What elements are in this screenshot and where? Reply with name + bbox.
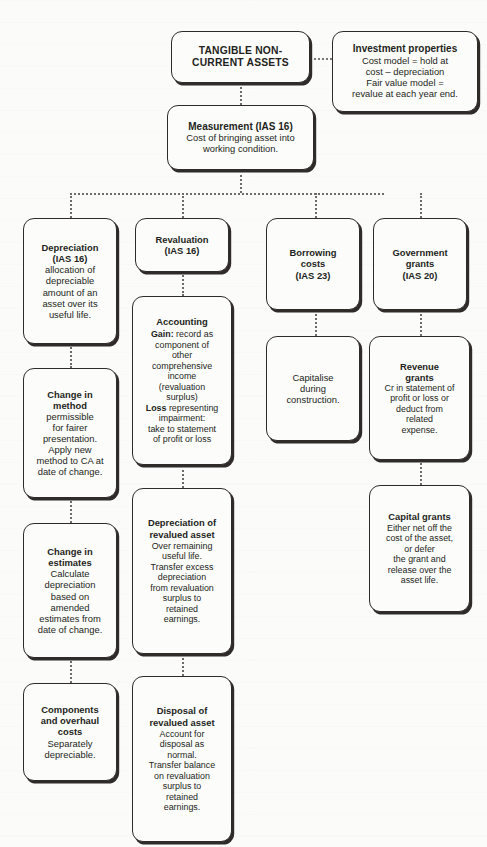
node-title-line: Disposal of	[157, 705, 208, 716]
node-title-line: costs	[58, 726, 83, 737]
node-line: surplus to	[163, 781, 201, 792]
connector-bus-to-revaluation	[182, 193, 184, 218]
node-line: date of change.	[38, 624, 103, 635]
connector-measurement-to-bus	[240, 170, 242, 193]
node-line: Transfer balance	[149, 760, 215, 771]
node-accounting[interactable]: Accounting Gain: record as component of …	[132, 296, 232, 465]
node-line: construction.	[286, 394, 339, 405]
node-line: Cost model = hold at	[362, 55, 448, 66]
node-change-in-estimates[interactable]: Change in estimates Calculate depreciati…	[23, 523, 117, 658]
node-line: asset life.	[401, 575, 439, 586]
node-line: presentation.	[43, 433, 97, 444]
node-title-line: Borrowing	[290, 247, 337, 258]
node-line: depreciable	[46, 275, 94, 286]
node-line: Over remaining	[152, 541, 213, 552]
node-title-line: estimates	[48, 557, 91, 568]
node-line: retained	[166, 792, 198, 803]
node-line: profit or loss or	[390, 393, 449, 404]
node-line: from revaluation	[150, 583, 214, 594]
node-line: or defer	[404, 544, 435, 555]
node-line: amended	[50, 602, 89, 613]
node-line: record as	[174, 329, 213, 339]
node-capital-grants[interactable]: Capital grants Either net off the cost o…	[369, 485, 470, 612]
node-line: Apply new	[48, 444, 91, 455]
node-line: cost – depreciation	[366, 66, 445, 77]
node-line: depreciation	[44, 579, 95, 590]
node-line: take to statement	[148, 424, 216, 435]
node-line: component of	[155, 340, 209, 351]
node-line: earnings.	[164, 614, 201, 625]
node-disposal-of-revalued-asset[interactable]: Disposal of revalued asset Account for d…	[132, 676, 232, 842]
node-title: Investment properties	[353, 43, 457, 55]
node-title-line: Change in	[47, 546, 92, 557]
connector-revaluation-to-accounting	[182, 272, 184, 296]
node-line: deduct from	[396, 404, 443, 415]
node-government-grants[interactable]: Government grants (IAS 20)	[373, 218, 467, 310]
connector-depreciation-to-change-method	[70, 344, 72, 368]
node-title-line: Revenue	[400, 361, 439, 372]
node-line: Transfer excess	[151, 562, 214, 573]
node-line: revalue at each year end.	[352, 88, 458, 99]
node-title-line: (IAS 20)	[403, 270, 438, 281]
loss-label: Loss	[146, 403, 167, 413]
node-line: Cost of bringing asset into	[186, 132, 294, 143]
node-depreciation-of-revalued-asset[interactable]: Depreciation of revalued asset Over rema…	[132, 488, 232, 654]
node-title-line: Revaluation	[155, 234, 208, 245]
node-title-line: Depreciation	[42, 242, 99, 253]
node-title-line: (IAS 23)	[296, 270, 331, 281]
connector-depreciation-revalued-to-disposal	[182, 654, 184, 676]
node-line: of profit or loss	[153, 434, 211, 445]
node-line: cost of the asset,	[386, 533, 453, 544]
node-line: comprehensive	[152, 361, 212, 372]
node-line: surplus)	[166, 392, 198, 403]
node-line: for fairer	[53, 422, 88, 433]
node-investment-properties[interactable]: Investment properties Cost model = hold …	[332, 31, 478, 112]
node-borrowing-costs[interactable]: Borrowing costs (IAS 23)	[266, 218, 360, 310]
connector-bus-to-borrowing	[315, 193, 317, 218]
node-line: related	[406, 414, 433, 425]
node-gain-line: Gain: record as	[151, 329, 213, 340]
node-line: during	[300, 383, 326, 394]
node-title-line: Government	[392, 247, 447, 258]
node-line: Calculate	[50, 568, 89, 579]
node-line: amount of an	[43, 287, 98, 298]
node-line: estimates from	[39, 613, 100, 624]
node-line: release over the	[388, 565, 452, 576]
node-line: depreciable.	[44, 749, 95, 760]
node-line: Either net off the	[387, 523, 452, 534]
node-line: representing	[166, 403, 218, 413]
connector-revenue-grants-to-capital-grants	[420, 460, 422, 485]
node-line: expense.	[401, 425, 437, 436]
node-title-line: method	[53, 400, 87, 411]
node-line: date of change.	[38, 466, 103, 477]
connector-change-estimates-to-components	[70, 658, 72, 683]
connector-root-to-measurement	[240, 83, 242, 105]
node-title-line: Components	[41, 704, 98, 715]
node-change-in-method[interactable]: Change in method permissible for fairer …	[23, 368, 117, 498]
node-measurement[interactable]: Measurement (IAS 16) Cost of bringing as…	[167, 105, 314, 170]
node-tangible-non-current-assets[interactable]: TANGIBLE NON-CURRENT ASSETS	[171, 31, 310, 83]
node-components-and-overhaul-costs[interactable]: Components and overhaul costs Separately…	[23, 683, 117, 781]
node-line: depreciation	[158, 572, 206, 583]
node-line: useful life.	[49, 309, 91, 320]
node-line: on revaluation	[154, 771, 210, 782]
node-title: Capital grants	[388, 511, 451, 522]
mindmap-canvas: TANGIBLE NON-CURRENT ASSETS Investment p…	[0, 0, 487, 847]
node-revenue-grants[interactable]: Revenue grants Cr in statement of profit…	[369, 336, 470, 460]
node-revaluation[interactable]: Revaluation (IAS 16)	[135, 218, 229, 272]
node-line: permissible	[46, 411, 93, 422]
node-line: useful life.	[162, 551, 202, 562]
connector-bus-to-grants	[420, 193, 422, 218]
node-line: Separately	[48, 738, 93, 749]
node-line: the grant and	[393, 554, 445, 565]
node-title-line: (IAS 16)	[165, 245, 200, 256]
node-title: Measurement (IAS 16)	[188, 121, 292, 133]
connector-accounting-to-depreciation-revalued	[182, 465, 184, 488]
node-depreciation[interactable]: Depreciation (IAS 16) allocation of depr…	[23, 218, 117, 344]
node-title: Accounting	[156, 316, 208, 327]
connector-change-method-to-change-estimates	[70, 498, 72, 523]
node-capitalise-during-construction[interactable]: Capitalise during construction.	[266, 336, 360, 441]
node-line: based on	[51, 591, 90, 602]
node-title: TANGIBLE NON-CURRENT ASSETS	[176, 45, 305, 69]
node-title-line: revalued asset	[149, 717, 214, 728]
